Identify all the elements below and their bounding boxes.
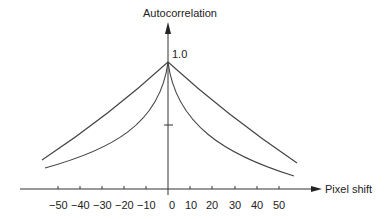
svg-text:−40: −40: [71, 199, 90, 211]
svg-text:−20: −20: [115, 199, 134, 211]
svg-text:0: 0: [169, 199, 175, 211]
svg-text:−30: −30: [93, 199, 112, 211]
x-axis-label: Pixel shift: [325, 183, 372, 195]
svg-text:30: 30: [229, 199, 241, 211]
y-axis-label: Autocorrelation: [143, 7, 217, 19]
svg-text:20: 20: [206, 199, 218, 211]
autocorrelation-chart: Pixel shift Autocorrelation 1.0 −50 −40 …: [0, 0, 386, 219]
svg-text:50: 50: [273, 199, 285, 211]
svg-text:−50: −50: [49, 199, 68, 211]
svg-text:40: 40: [251, 199, 263, 211]
y-axis-arrow-icon: [165, 22, 171, 34]
series-slow-decay: [42, 62, 297, 163]
series-fast-decay: [45, 62, 294, 176]
svg-text:−10: −10: [137, 199, 156, 211]
x-axis-arrow-icon: [311, 186, 322, 192]
y-tick-label-1.0: 1.0: [172, 48, 187, 60]
svg-text:10: 10: [185, 199, 197, 211]
x-tick-labels: −50 −40 −30 −20 −10 0 10 20 30 40 50: [49, 199, 285, 211]
